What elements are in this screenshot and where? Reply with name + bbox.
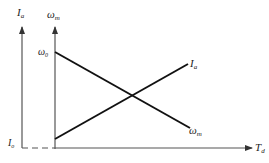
- omega-curve-label: ωm: [189, 124, 202, 138]
- ia-curve-label: Ia: [189, 57, 198, 71]
- omega0-label: ω0: [38, 46, 48, 58]
- right-axis-label: ωm: [47, 8, 60, 22]
- speed-curve: [55, 52, 190, 128]
- current-curve: [55, 64, 188, 139]
- torque-speed-current-diagram: Ia ωm ω0 Ia ωm Io Td: [0, 0, 269, 163]
- io-label: Io: [7, 137, 14, 149]
- left-axis-label: Ia: [16, 6, 25, 20]
- x-axis-label: Td: [255, 141, 265, 155]
